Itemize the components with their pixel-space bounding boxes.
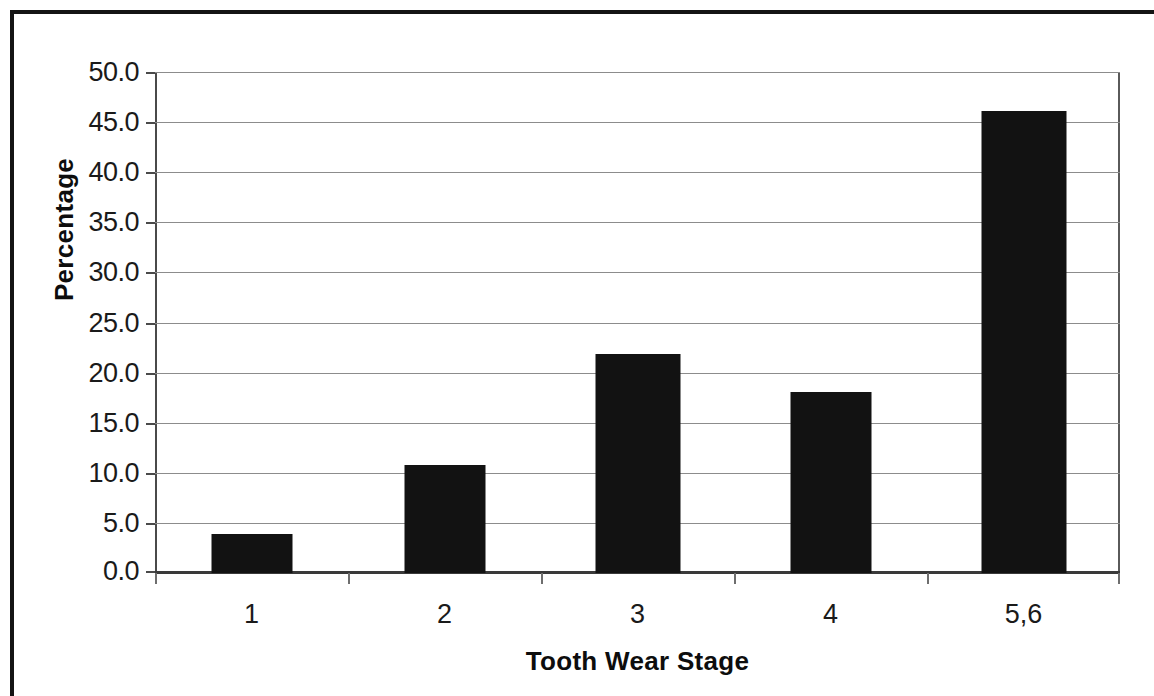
y-tick-mark-0	[146, 571, 155, 573]
x-tick-mark-5	[1118, 573, 1120, 584]
y-tick-label-5: 5.0	[103, 507, 139, 538]
x-tick-label-3: 3	[630, 599, 645, 630]
x-tick-label-2: 2	[437, 599, 452, 630]
bar-series: 1 2 3 4 5,6	[155, 72, 1120, 573]
y-tick-label-15: 15.0	[88, 407, 139, 438]
y-tick-mark-40	[146, 172, 155, 174]
x-tick-mark-0	[155, 573, 157, 584]
y-tick-mark-5	[146, 523, 155, 525]
y-tick-mark-25	[146, 323, 155, 325]
y-tick-label-40: 40.0	[88, 157, 139, 188]
x-tick-label-5-6: 5,6	[1005, 599, 1043, 630]
bar-band-4: 4	[734, 72, 927, 573]
y-tick-mark-45	[146, 122, 155, 124]
y-tick-mark-20	[146, 373, 155, 375]
y-tick-label-35: 35.0	[88, 207, 139, 238]
plot-area: 50.0 45.0 40.0 35.0 30.0 25.0 20.0 15.0	[155, 72, 1120, 573]
bar-stage-5-6[interactable]	[981, 111, 1066, 573]
bar-band-1: 1	[155, 72, 348, 573]
y-tick-label-10: 10.0	[88, 457, 139, 488]
x-tick-label-1: 1	[244, 599, 259, 630]
y-tick-label-25: 25.0	[88, 307, 139, 338]
chart-page: 50.0 45.0 40.0 35.0 30.0 25.0 20.0 15.0	[0, 0, 1154, 696]
x-tick-mark-4	[927, 573, 929, 584]
y-tick-mark-50	[146, 72, 155, 74]
y-tick-mark-35	[146, 222, 155, 224]
bar-stage-4[interactable]	[790, 392, 871, 573]
y-tick-label-20: 20.0	[88, 357, 139, 388]
page-border-left	[10, 10, 14, 696]
y-tick-mark-10	[146, 473, 155, 475]
bar-band-3: 3	[541, 72, 734, 573]
bar-stage-2[interactable]	[404, 465, 485, 573]
y-tick-label-50: 50.0	[88, 57, 139, 88]
y-tick-label-0: 0.0	[103, 556, 139, 587]
y-tick-label-45: 45.0	[88, 107, 139, 138]
bar-band-5: 5,6	[927, 72, 1120, 573]
bar-stage-3[interactable]	[595, 354, 680, 573]
y-tick-mark-15	[146, 423, 155, 425]
x-tick-mark-1	[348, 573, 350, 584]
bar-stage-1[interactable]	[211, 534, 292, 573]
x-axis-title: Tooth Wear Stage	[155, 646, 1120, 677]
bar-band-2: 2	[348, 72, 541, 573]
x-tick-mark-2	[541, 573, 543, 584]
page-border-top	[10, 10, 1154, 14]
y-axis-title: Percentage	[49, 110, 80, 350]
y-tick-label-30: 30.0	[88, 257, 139, 288]
x-tick-mark-3	[734, 573, 736, 584]
y-tick-mark-30	[146, 272, 155, 274]
x-tick-label-4: 4	[823, 599, 838, 630]
